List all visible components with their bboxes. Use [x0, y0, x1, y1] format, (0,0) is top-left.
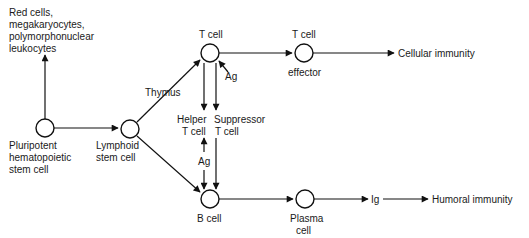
edge-lymphoid-to-bcell — [137, 136, 200, 192]
label-t-cell-effector-bottom: effector — [288, 67, 322, 78]
node-plasma-cell — [296, 190, 314, 208]
immune-cell-lineage-diagram: Red cells, megakaryocytes, polymorphonuc… — [0, 0, 529, 238]
label-plasma-cell: Plasma cell — [290, 213, 326, 236]
label-cellular-immunity: Cellular immunity — [398, 48, 475, 59]
node-b-cell — [201, 190, 219, 208]
label-ig: Ig — [371, 194, 379, 205]
nodes — [36, 44, 314, 208]
labels: Red cells, megakaryocytes, polymorphonuc… — [9, 7, 513, 236]
label-humoral-immunity: Humoral immunity — [432, 194, 513, 205]
label-pluripotent-stem-cell: Pluripotent hematopoietic stem cell — [9, 140, 74, 175]
label-b-cell: B cell — [197, 213, 221, 224]
label-suppressor-t-cell: Suppressor T cell — [214, 114, 268, 137]
node-t-cell — [201, 44, 219, 62]
label-ag-top: Ag — [225, 71, 237, 82]
node-pluripotent-stem-cell — [36, 119, 54, 137]
label-thymus: Thymus — [145, 87, 181, 98]
label-myeloid: Red cells, megakaryocytes, polymorphonuc… — [9, 7, 97, 54]
label-t-cell-effector-top: T cell — [292, 29, 316, 40]
label-t-cell: T cell — [199, 29, 223, 40]
label-helper-t-cell: Helper T cell — [177, 114, 209, 137]
node-t-cell-effector — [295, 44, 313, 62]
label-lymphoid-stem-cell: Lymphoid stem cell — [96, 140, 142, 163]
label-ag-middle: Ag — [198, 156, 210, 167]
node-lymphoid-stem-cell — [121, 120, 139, 138]
